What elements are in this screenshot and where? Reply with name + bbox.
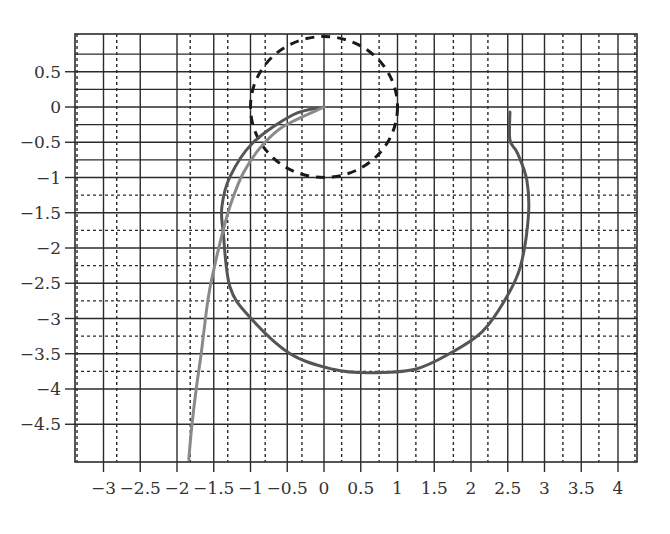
y-tick-label: −2 xyxy=(36,238,61,258)
x-tick-label: 0.5 xyxy=(347,478,374,498)
x-tick-label: 2 xyxy=(466,478,477,498)
y-tick-label: −1 xyxy=(36,168,61,188)
y-tick-label: −3.5 xyxy=(20,344,61,364)
y-axis: 0.50−0.5−1−1.5−2−2.5−3−3.5−4−4.5 xyxy=(20,62,75,435)
x-tick-label: 4 xyxy=(613,478,624,498)
horizontal-grid-solid xyxy=(75,54,637,424)
x-tick-label: 1.5 xyxy=(421,478,448,498)
x-tick-label: −1 xyxy=(238,478,263,498)
chart: −3−2.5−2−1.5−1−0.500.511.522.533.54 0.50… xyxy=(0,0,670,534)
y-tick-label: −0.5 xyxy=(20,132,61,152)
x-axis: −3−2.5−2−1.5−1−0.500.511.522.533.54 xyxy=(91,462,623,498)
y-tick-label: 0 xyxy=(50,97,61,117)
y-tick-label: −2.5 xyxy=(20,273,61,293)
loop-curve-series xyxy=(221,107,528,373)
x-tick-label: −0.5 xyxy=(267,478,308,498)
x-tick-label: −2.5 xyxy=(120,478,161,498)
y-tick-label: −1.5 xyxy=(20,203,61,223)
y-tick-label: −4.5 xyxy=(20,414,61,434)
x-tick-label: 1 xyxy=(392,478,403,498)
x-tick-label: −1.5 xyxy=(193,478,234,498)
x-tick-label: −2 xyxy=(164,478,189,498)
y-tick-label: 0.5 xyxy=(34,62,61,82)
x-tick-label: 3 xyxy=(539,478,550,498)
x-tick-label: 3.5 xyxy=(568,478,595,498)
x-tick-label: 2.5 xyxy=(494,478,521,498)
y-tick-label: −3 xyxy=(36,309,61,329)
y-tick-label: −4 xyxy=(36,379,61,399)
x-tick-label: 0 xyxy=(319,478,330,498)
x-tick-label: −3 xyxy=(91,478,116,498)
